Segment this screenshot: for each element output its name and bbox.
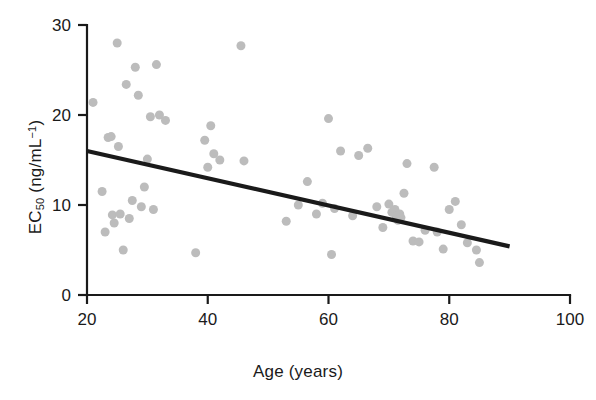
data-point xyxy=(312,210,321,219)
data-point xyxy=(206,121,215,130)
y-axis-title-subscript: 50 xyxy=(34,198,46,211)
data-point xyxy=(98,187,107,196)
data-point xyxy=(472,246,481,255)
data-point xyxy=(399,189,408,198)
data-point xyxy=(354,151,363,160)
data-point xyxy=(324,114,333,123)
x-tick-label: 40 xyxy=(198,310,217,329)
x-tick-label: 80 xyxy=(440,310,459,329)
data-point xyxy=(303,177,312,186)
data-point xyxy=(113,39,122,48)
data-point xyxy=(101,228,110,237)
axes: 0102030 20406080100 xyxy=(52,16,584,329)
data-point xyxy=(430,163,439,172)
plot-canvas: 0102030 20406080100 xyxy=(0,0,596,400)
data-point xyxy=(372,202,381,211)
x-axis-title: Age (years) xyxy=(0,362,596,382)
data-point xyxy=(146,112,155,121)
data-point xyxy=(140,183,149,192)
data-point xyxy=(137,202,146,211)
data-point xyxy=(134,91,143,100)
data-point xyxy=(239,156,248,165)
data-point xyxy=(457,220,466,229)
x-axis-ticks: 20406080100 xyxy=(78,295,585,329)
y-axis-title-superscript: −1 xyxy=(26,126,38,139)
data-point xyxy=(378,223,387,232)
y-axis-ticks: 0102030 xyxy=(52,16,87,305)
data-point xyxy=(327,250,336,259)
data-point xyxy=(363,144,372,153)
data-point xyxy=(336,147,345,156)
data-point xyxy=(294,201,303,210)
data-points xyxy=(89,39,484,268)
data-point xyxy=(107,132,116,141)
data-point xyxy=(200,136,209,145)
x-tick-label: 100 xyxy=(556,310,584,329)
data-point xyxy=(114,142,123,151)
data-point xyxy=(125,214,134,223)
scatter-plot-figure: 0102030 20406080100 EC50 (ng/mL−1) Age (… xyxy=(0,0,596,400)
y-axis-title-base: EC xyxy=(26,210,45,234)
y-tick-label: 10 xyxy=(52,196,71,215)
data-point xyxy=(116,210,125,219)
data-point xyxy=(236,41,245,50)
data-point xyxy=(122,80,131,89)
y-axis-title: EC50 (ng/mL−1) xyxy=(26,37,46,317)
data-point xyxy=(149,205,158,214)
data-point xyxy=(203,163,212,172)
data-point xyxy=(108,210,117,219)
data-point xyxy=(131,63,140,72)
data-point xyxy=(128,196,137,205)
data-point xyxy=(282,217,291,226)
data-point xyxy=(152,60,161,69)
regression-line xyxy=(87,151,510,246)
data-point xyxy=(475,258,484,267)
y-tick-label: 30 xyxy=(52,16,71,35)
data-point xyxy=(161,116,170,125)
x-tick-label: 60 xyxy=(319,310,338,329)
data-point xyxy=(415,237,424,246)
data-point xyxy=(451,197,460,206)
x-tick-label: 20 xyxy=(78,310,97,329)
y-axis-title-unit-prefix: (ng/mL xyxy=(26,139,45,198)
y-axis-title-unit-suffix: ) xyxy=(26,120,45,126)
y-tick-label: 0 xyxy=(62,286,71,305)
data-point xyxy=(215,156,224,165)
data-point xyxy=(119,246,128,255)
data-point xyxy=(110,219,119,228)
data-point xyxy=(439,245,448,254)
data-point xyxy=(445,205,454,214)
y-tick-label: 20 xyxy=(52,106,71,125)
data-point xyxy=(191,248,200,257)
data-point xyxy=(402,159,411,168)
data-point xyxy=(89,98,98,107)
